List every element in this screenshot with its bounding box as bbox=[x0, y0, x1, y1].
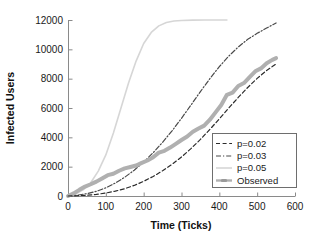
x-tick-label: 400 bbox=[211, 201, 228, 212]
chart-legend[interactable]: p=0.02p=0.03p=0.05Observed bbox=[213, 134, 297, 188]
legend-label: Observed bbox=[237, 175, 278, 186]
legend-label: p=0.05 bbox=[237, 162, 266, 173]
x-tick-label: 0 bbox=[65, 201, 71, 212]
y-tick-label: 8000 bbox=[41, 73, 64, 84]
x-tick-label: 600 bbox=[287, 201, 304, 212]
x-axis-tick-labels: 0100200300400500600 bbox=[65, 201, 304, 212]
x-tick-label: 100 bbox=[97, 201, 114, 212]
legend-label: p=0.03 bbox=[237, 150, 266, 161]
chart-canvas: 0100200300400500600 02000400060008000100… bbox=[0, 0, 310, 237]
y-tick-label: 4000 bbox=[41, 132, 64, 143]
y-tick-label: 0 bbox=[57, 191, 63, 202]
x-tick-label: 300 bbox=[173, 201, 190, 212]
y-tick-label: 2000 bbox=[41, 161, 64, 172]
y-tick-label: 12000 bbox=[35, 15, 63, 26]
x-axis-title: Time (Ticks) bbox=[151, 219, 212, 231]
x-tick-label: 200 bbox=[135, 201, 152, 212]
y-tick-label: 6000 bbox=[41, 103, 64, 114]
y-tick-label: 10000 bbox=[35, 44, 63, 55]
y-axis-tick-labels: 020004000600080001000012000 bbox=[35, 15, 63, 202]
chart-figure: 0100200300400500600 02000400060008000100… bbox=[0, 0, 310, 237]
legend-label: p=0.02 bbox=[237, 138, 266, 149]
y-axis-title: Infected Users bbox=[4, 72, 16, 145]
x-tick-label: 500 bbox=[249, 201, 266, 212]
